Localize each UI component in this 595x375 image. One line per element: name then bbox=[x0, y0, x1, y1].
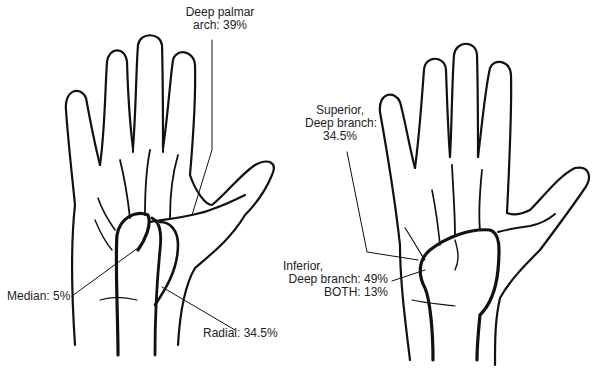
inferior-deep-branch-label: Inferior, Deep branch: 49% BOTH: 13% bbox=[283, 260, 388, 299]
both-label: BOTH: 13% bbox=[283, 286, 388, 299]
superior-line3: 34.5% bbox=[305, 130, 375, 143]
median-label: Median: 5% bbox=[7, 290, 70, 303]
radial-label: Radial: 34.5% bbox=[203, 327, 278, 340]
right-hand-drawing bbox=[0, 0, 595, 375]
deep-palmar-line2: arch: 39% bbox=[180, 19, 260, 32]
superior-deep-branch-label: Superior, Deep branch: 34.5% bbox=[305, 104, 375, 143]
hand-vasculature-figure: Deep palmar arch: 39% Median: 5% Radial:… bbox=[0, 0, 595, 375]
deep-palmar-arch-label: Deep palmar arch: 39% bbox=[180, 6, 260, 32]
